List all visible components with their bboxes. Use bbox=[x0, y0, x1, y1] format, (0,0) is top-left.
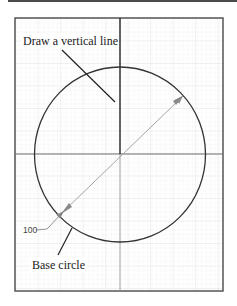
base-circle-label: Base circle bbox=[32, 258, 85, 272]
construction-drawing: 100 Draw a vertical line Base circle bbox=[0, 0, 237, 306]
instruction-label: Draw a vertical line bbox=[23, 34, 118, 48]
dimension-value: 100 bbox=[23, 225, 37, 235]
